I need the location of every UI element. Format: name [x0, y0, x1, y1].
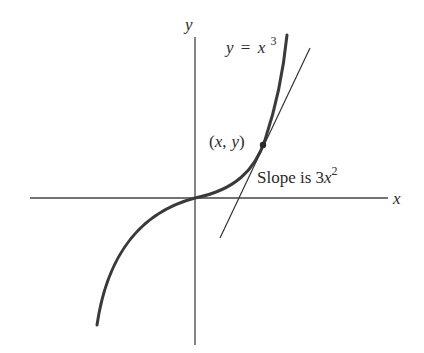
y-axis-label: y	[183, 15, 193, 34]
x-axis-label: x	[392, 189, 401, 208]
slope-label: Slope is 3x2	[257, 164, 338, 187]
point-label: (x,y)	[209, 132, 245, 151]
curve-equation-label: y = x 3	[224, 34, 276, 57]
diagram-canvas: y x y = x 3 (x,y) Slope is 3x2	[0, 0, 424, 353]
tangent-point	[260, 142, 266, 148]
